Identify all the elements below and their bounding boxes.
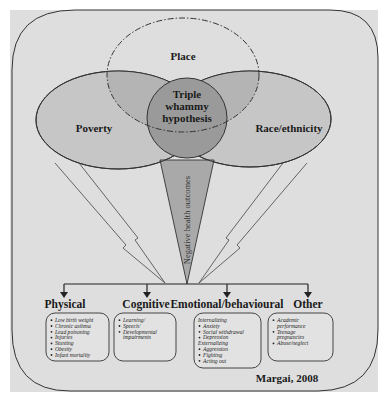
category-item: Infant mortality — [54, 352, 91, 358]
credit-label: Margai, 2008 — [256, 372, 319, 384]
bullet-icon — [273, 343, 275, 345]
bullet-icon — [51, 343, 53, 345]
center-label-line1: Triple — [173, 88, 202, 100]
bullet-icon — [51, 331, 53, 333]
poverty-label: Poverty — [76, 122, 113, 134]
bullet-icon — [119, 325, 121, 327]
category-item: Abuse/neglect — [276, 340, 309, 346]
bullet-icon — [199, 348, 201, 350]
category-item: impairments — [123, 334, 151, 340]
bullet-icon — [199, 331, 201, 333]
center-label-line2: whammy — [165, 100, 209, 112]
category-emotional-label: Emotional/behavioural — [170, 298, 283, 310]
category-physical-label: Physical — [45, 298, 86, 311]
center-label-line3: hypothesis — [162, 112, 212, 124]
bullet-icon — [51, 354, 53, 356]
funnel-label: Negative health outcomes — [182, 176, 192, 264]
race-label: Race/ethnicity — [255, 122, 323, 134]
bullet-icon — [273, 331, 275, 333]
bullet-icon — [199, 337, 201, 339]
triple-whammy-diagram: Place Poverty Race/ethnicity Triple wham… — [0, 0, 386, 401]
category-cognitive-label: Cognitive — [122, 298, 169, 311]
bullet-icon — [273, 319, 275, 321]
bullet-icon — [51, 348, 53, 350]
bullet-icon — [119, 331, 121, 333]
place-label: Place — [170, 50, 195, 62]
bullet-icon — [199, 325, 201, 327]
bullet-icon — [199, 360, 201, 362]
bullet-icon — [51, 337, 53, 339]
category-other-label: Other — [293, 298, 322, 310]
bullet-icon — [119, 319, 121, 321]
bullet-icon — [51, 319, 53, 321]
bullet-icon — [199, 354, 201, 356]
category-item: Acting out — [202, 358, 227, 364]
bullet-icon — [51, 325, 53, 327]
